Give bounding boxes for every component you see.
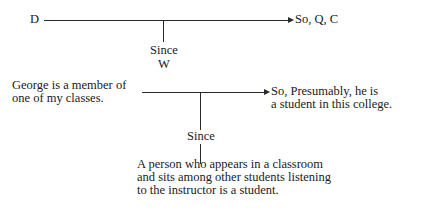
conclusion-label: So, Q, C — [295, 13, 338, 26]
warrant-label: W — [143, 58, 185, 71]
schema-arrowhead — [288, 17, 294, 23]
data-label: D — [30, 13, 39, 26]
example-data-line-2: one of my classes. — [12, 92, 104, 105]
example-warrant-line-3: to the instructor is a student. — [137, 184, 279, 197]
example-warrant-branch-upper — [200, 92, 201, 130]
schema-warrant-branch — [163, 20, 164, 42]
example-arrowhead — [264, 89, 270, 95]
schema-arrow-line — [44, 20, 288, 21]
example-arrow-line — [142, 92, 264, 93]
example-conclusion-line-2: a student in this college. — [271, 98, 392, 111]
example-since-connector: Since — [180, 130, 222, 143]
since-connector: Since — [143, 44, 185, 57]
